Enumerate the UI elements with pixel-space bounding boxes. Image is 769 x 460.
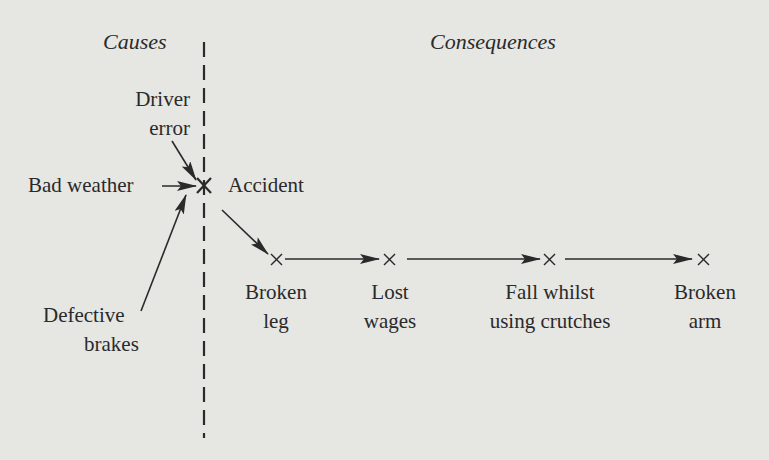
cause-defective-brakes-line2: brakes (38, 330, 168, 359)
causes-header: Causes (103, 27, 167, 56)
consequence-fall: Fall whilst using crutches (470, 278, 630, 336)
lost-wages-marker-icon (384, 254, 395, 265)
cause-driver-error: Driver error (110, 85, 190, 143)
broken-leg-marker-icon (271, 254, 282, 265)
arrow-defective-brakes-to-accident (141, 195, 186, 311)
consequences-header: Consequences (430, 27, 556, 56)
consequence-broken-arm-line1: Broken (655, 278, 755, 307)
fall-marker-icon (544, 254, 555, 265)
consequence-fall-line1: Fall whilst (470, 278, 630, 307)
cause-defective-brakes-line1: Defective (38, 301, 168, 330)
arrow-driver-error-to-accident (172, 141, 196, 180)
cause-consequence-diagram: Causes Consequences Driver error Bad wea… (0, 0, 769, 460)
consequence-fall-line2: using crutches (470, 307, 630, 336)
cause-driver-error-line2: error (110, 114, 190, 143)
consequence-lost-wages-line1: Lost (340, 278, 440, 307)
cause-bad-weather: Bad weather (28, 171, 134, 200)
consequence-broken-arm-line2: arm (655, 307, 755, 336)
consequence-broken-leg: Broken leg (226, 278, 326, 336)
diagram-lines (0, 0, 769, 460)
cause-driver-error-line1: Driver (110, 85, 190, 114)
event-accident: Accident (228, 171, 304, 200)
broken-arm-marker-icon (698, 254, 709, 265)
consequence-broken-leg-line2: leg (226, 307, 326, 336)
arrow-accident-to-broken-leg (222, 210, 268, 254)
cause-defective-brakes: Defective brakes (38, 301, 168, 359)
consequence-lost-wages: Lost wages (340, 278, 440, 336)
consequence-lost-wages-line2: wages (340, 307, 440, 336)
consequence-broken-leg-line1: Broken (226, 278, 326, 307)
consequence-broken-arm: Broken arm (655, 278, 755, 336)
